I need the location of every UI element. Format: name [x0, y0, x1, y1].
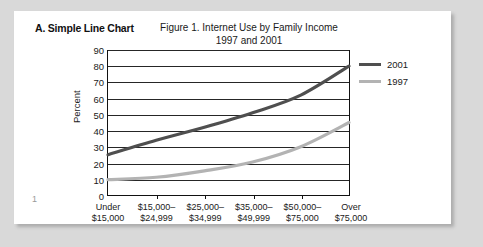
x-category-label-line: $35,000–: [235, 202, 273, 213]
x-category-label-line: $49,999: [235, 213, 273, 224]
y-tick-label: 20: [93, 158, 104, 169]
y-tick-label: 50: [93, 109, 104, 120]
legend-swatch-icon: [359, 63, 381, 67]
y-tick-label: 70: [93, 77, 104, 88]
legend-item-1997[interactable]: 1997: [359, 73, 408, 90]
x-axis-tick: [205, 195, 206, 199]
x-category-label-line: $24,999: [138, 213, 176, 224]
x-category-label-line: Over: [335, 202, 368, 213]
x-category-label: $15,000–$24,999: [138, 202, 176, 224]
y-tick-label: 0: [99, 191, 104, 202]
x-axis-tick: [254, 195, 255, 199]
plot-area: 0102030405060708090 Under$15,000$15,000–…: [107, 50, 350, 196]
y-tick-label: 30: [93, 142, 104, 153]
y-tick-label: 10: [93, 174, 104, 185]
x-category-label: $35,000–$49,999: [235, 202, 273, 224]
legend-item-2001[interactable]: 2001: [359, 56, 408, 73]
y-tick-label: 40: [93, 126, 104, 137]
x-category-label-line: $15,000: [92, 213, 125, 224]
x-category-label-line: $15,000–: [138, 202, 176, 213]
screenshot-root: A. Simple Line Chart Figure 1. Internet …: [0, 0, 483, 247]
series-line-1997: [108, 123, 349, 180]
y-tick-label: 90: [93, 45, 104, 56]
x-axis-tick: [302, 195, 303, 199]
x-category-label-line: $25,000–: [186, 202, 224, 213]
x-category-label-line: $34,999: [186, 213, 224, 224]
legend-swatch-icon: [359, 80, 381, 84]
x-category-label: Under$15,000: [92, 202, 125, 224]
series-lines: [108, 50, 349, 195]
legend-label: 1997: [387, 76, 408, 87]
y-tick-label: 60: [93, 93, 104, 104]
x-category-label-line: $50,000–: [284, 202, 322, 213]
y-axis-title: Percent: [71, 90, 82, 123]
legend-label: 2001: [387, 59, 408, 70]
x-category-label: $25,000–$34,999: [186, 202, 224, 224]
x-category-label-line: $75,000: [284, 213, 322, 224]
y-tick-label: 80: [93, 61, 104, 72]
chart-legend: 20011997: [359, 56, 408, 90]
x-axis-tick: [157, 195, 158, 199]
x-category-label-line: Under: [92, 202, 125, 213]
x-category-label: $50,000–$75,000: [284, 202, 322, 224]
document-page: A. Simple Line Chart Figure 1. Internet …: [14, 11, 451, 224]
x-category-label-line: $75,000: [335, 213, 368, 224]
x-category-label: Over$75,000: [335, 202, 368, 224]
chart-plot-wrapper: Percent 0102030405060708090 Under$15,000…: [14, 11, 451, 224]
